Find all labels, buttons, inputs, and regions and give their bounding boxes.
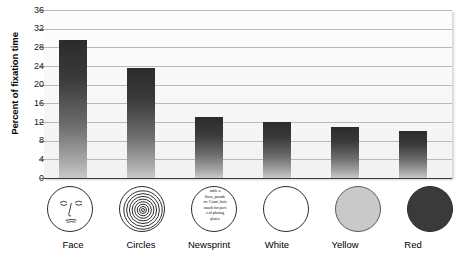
- y-axis-title-container: Percent of fixation time: [0, 0, 18, 185]
- stimulus-face: [47, 186, 95, 234]
- face-icon: [47, 186, 93, 232]
- x-tick-label: Newsprint: [170, 239, 248, 250]
- x-axis-line: [44, 178, 452, 179]
- stimulus-red: [407, 186, 455, 234]
- x-axis-category-labels: FaceCirclesNewsprintWhiteYellowRed: [44, 239, 452, 255]
- plot-area: [44, 10, 452, 178]
- stimulus-circles: [119, 186, 167, 234]
- stimuli-row: table a llova, parade tre Court, hois mu…: [44, 186, 452, 238]
- bar: [59, 40, 87, 178]
- white-disc-icon: [263, 186, 309, 232]
- bar: [399, 131, 427, 178]
- yellow-disc-icon: [335, 186, 381, 232]
- x-tick-label: White: [238, 239, 316, 250]
- stimulus-yellow: [335, 186, 383, 234]
- newsprint-line-6: plates: [191, 216, 237, 222]
- stimulus-newsprint: table a llova, parade tre Court, hois mu…: [191, 186, 239, 234]
- stimulus-white: [263, 186, 311, 234]
- bar: [127, 68, 155, 178]
- x-tick-label: Yellow: [306, 239, 384, 250]
- bar: [263, 122, 291, 178]
- red-disc-icon: [407, 186, 453, 232]
- bar: [331, 127, 359, 178]
- x-tick-label: Red: [374, 239, 452, 250]
- concentric-circles-icon: [119, 186, 165, 232]
- y-tick-mark: [39, 178, 44, 179]
- newsprint-icon: table a llova, parade tre Court, hois mu…: [191, 186, 237, 232]
- bar-series: [44, 10, 452, 178]
- chart-figure: Percent of fixation time 048121620242832…: [0, 0, 456, 257]
- x-tick-label: Face: [34, 239, 112, 250]
- newsprint-text: table a llova, parade tre Court, hois mu…: [191, 188, 237, 222]
- bar: [195, 117, 223, 178]
- x-tick-label: Circles: [102, 239, 180, 250]
